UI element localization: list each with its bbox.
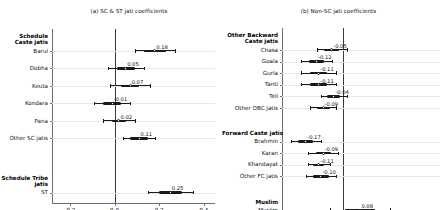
point-estimate — [111, 102, 114, 105]
row-label-gurla: Gurla — [222, 70, 278, 76]
confidence-interval-cap — [306, 175, 307, 178]
row-label-goala: Goala — [222, 58, 278, 64]
row-gridline — [52, 51, 215, 52]
row-label-tanti: Tanti — [222, 81, 278, 87]
confidence-interval-cap — [336, 71, 337, 74]
confidence-interval-cap — [150, 84, 151, 87]
point-estimate — [169, 191, 172, 194]
y-tick-mark — [50, 121, 53, 122]
confidence-interval-cap — [291, 140, 292, 143]
confidence-interval-cap — [130, 102, 131, 105]
point-estimate-label: -0.12 — [318, 54, 331, 60]
point-estimate-label: 0.18 — [156, 44, 168, 50]
y-tick-mark — [50, 138, 53, 139]
y-tick-mark — [280, 50, 283, 51]
confidence-interval-cap — [347, 48, 348, 51]
confidence-interval-cap — [301, 60, 302, 63]
x-tick-mark — [115, 204, 116, 206]
point-estimate — [317, 72, 320, 75]
point-estimate-label: 0.02 — [120, 114, 132, 120]
confidence-interval-cap — [330, 208, 331, 210]
x-tick-mark — [70, 204, 71, 206]
confidence-interval-cap — [94, 102, 95, 105]
confidence-interval-cap — [317, 48, 318, 51]
point-estimate-label: -0.11 — [320, 158, 333, 164]
y-tick-mark — [50, 103, 53, 104]
point-estimate-label: -0.09 — [325, 146, 338, 152]
confidence-interval-cap — [155, 137, 156, 140]
row-label-teli: Teli — [222, 93, 278, 99]
point-estimate — [138, 137, 141, 140]
confidence-interval-cap — [338, 152, 339, 155]
panel-a-title: (a) SC & ST jati coefficients — [0, 8, 222, 14]
row-gridline — [282, 165, 440, 166]
y-axis-spine — [282, 28, 283, 210]
group-label-line: Forward Caste jatis — [222, 130, 278, 136]
row-gridline — [282, 153, 440, 154]
confidence-interval-cap — [193, 191, 194, 194]
confidence-interval-cap — [175, 49, 176, 52]
group-label-line: jatis — [0, 181, 48, 187]
group-label-line: Muslim — [222, 199, 278, 205]
point-estimate-label: -0.04 — [335, 89, 348, 95]
row-label-khandayat: Khandayat — [222, 161, 278, 167]
confidence-interval-cap — [148, 191, 149, 194]
y-tick-mark — [50, 68, 53, 69]
point-estimate-label: -0.01 — [114, 96, 127, 102]
y-tick-mark — [50, 193, 53, 194]
x-tick-label: -0.2 — [56, 207, 84, 210]
confidence-interval-cap — [301, 83, 302, 86]
row-label-other-sc-jatis: Other SC jatis — [0, 135, 48, 141]
confidence-interval-cap — [347, 95, 348, 98]
confidence-interval-cap — [301, 71, 302, 74]
row-label-keuta: Keuta — [0, 83, 48, 89]
row-label-other-fc-jatis: Other FC jatis — [222, 173, 278, 179]
row-gridline — [282, 50, 440, 51]
group-label-0: ScheduleCaste jatis — [0, 33, 48, 46]
confidence-interval-cap — [336, 106, 337, 109]
row-label-st: ST — [0, 189, 48, 195]
confidence-interval-cap — [135, 119, 136, 122]
confidence-interval-cap — [108, 67, 109, 70]
confidence-interval-cap — [336, 83, 337, 86]
panel-b-title: (b) Non-SC jati coefficients — [222, 8, 445, 14]
point-estimate — [322, 152, 325, 155]
y-tick-mark — [280, 85, 283, 86]
x-axis-spine — [52, 203, 215, 204]
y-tick-mark — [280, 153, 283, 154]
confidence-interval-cap — [110, 84, 111, 87]
row-gridline — [52, 103, 215, 104]
x-tick-label: 0.2 — [145, 207, 173, 210]
point-estimate-label: 0.08 — [361, 203, 373, 209]
row-gridline — [282, 108, 440, 109]
confidence-interval-cap — [308, 152, 309, 155]
confidence-interval-cap — [336, 175, 337, 178]
row-label-other-obc-jatis: Other OBC jatis — [222, 105, 278, 111]
point-estimate-label: 0.05 — [127, 61, 139, 67]
row-label-barui: Barui — [0, 48, 48, 54]
point-estimate-label: 0.25 — [172, 185, 184, 191]
point-estimate-label: -0.11 — [320, 78, 333, 84]
y-tick-mark — [280, 165, 283, 166]
x-tick-label: 0.4 — [190, 207, 218, 210]
row-label-pana: Pana — [0, 118, 48, 124]
point-estimate-label: 0.11 — [141, 131, 153, 137]
group-label-0: Other BackwardCaste jatis — [222, 32, 278, 45]
y-tick-mark — [280, 62, 283, 63]
group-label-1: Schedule Tribejatis — [0, 175, 48, 188]
coefficient-plot-figure: (a) SC & ST jati coefficients -0.20.00.2… — [0, 0, 445, 210]
group-label-1: Forward Caste jatis — [222, 130, 278, 136]
confidence-interval-cap — [321, 140, 322, 143]
y-axis-spine — [52, 29, 53, 203]
zero-reference-line — [115, 29, 116, 203]
group-label-2: Muslim — [222, 199, 278, 205]
confidence-interval-cap — [310, 106, 311, 109]
confidence-interval-cap — [308, 163, 309, 166]
confidence-interval-cap — [390, 208, 391, 210]
group-label-line: Caste jatis — [222, 38, 278, 44]
point-estimate-label: -0.17 — [307, 134, 320, 140]
y-tick-mark — [280, 176, 283, 177]
row-label-dobha: Dobha — [0, 65, 48, 71]
panel-non-sc: (b) Non-SC jati coefficients -0.20.00.20… — [222, 0, 445, 210]
row-gridline — [282, 96, 440, 97]
